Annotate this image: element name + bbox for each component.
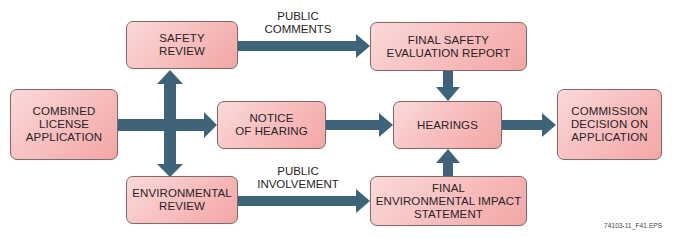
node-final-environmental-impact-statement: FINAL ENVIRONMENTAL IMPACT STATEMENT bbox=[370, 176, 527, 226]
node-label: COMMISSION DECISION ON APPLICATION bbox=[571, 105, 648, 144]
node-commission-decision: COMMISSION DECISION ON APPLICATION bbox=[557, 89, 662, 160]
node-label: HEARINGS bbox=[417, 119, 478, 132]
node-notice-of-hearing: NOTICE OF HEARING bbox=[217, 101, 326, 149]
node-label: NOTICE OF HEARING bbox=[235, 112, 308, 138]
node-label: COMBINED LICENSE APPLICATION bbox=[26, 105, 102, 144]
node-safety-review: SAFETY REVIEW bbox=[126, 21, 238, 69]
arrow-env-to-feis bbox=[238, 189, 370, 213]
node-label: ENVIRONMENTAL REVIEW bbox=[132, 187, 232, 213]
node-label: FINAL SAFETY EVALUATION REPORT bbox=[387, 34, 511, 60]
edge-label-public-comments: PUBLIC COMMENTS bbox=[248, 10, 348, 36]
arrow-feis-to-hearings bbox=[436, 149, 460, 176]
arrow-hearings-to-decision bbox=[502, 113, 556, 137]
figure-id: 74103-11_F41.EPS bbox=[604, 222, 662, 229]
edge-label-public-involvement: PUBLIC INVOLVEMENT bbox=[246, 165, 350, 191]
node-combined-license-application: COMBINED LICENSE APPLICATION bbox=[10, 89, 118, 160]
arrow-fser-to-hearings bbox=[436, 71, 460, 101]
arrow-notice-to-hearings bbox=[326, 113, 393, 137]
node-hearings: HEARINGS bbox=[393, 101, 502, 149]
node-label: SAFETY REVIEW bbox=[159, 32, 205, 58]
node-label: FINAL ENVIRONMENTAL IMPACT STATEMENT bbox=[376, 182, 522, 221]
node-environmental-review: ENVIRONMENTAL REVIEW bbox=[126, 176, 238, 224]
node-final-safety-evaluation-report: FINAL SAFETY EVALUATION REPORT bbox=[370, 22, 527, 71]
arrow-safety-to-fser bbox=[238, 34, 370, 58]
